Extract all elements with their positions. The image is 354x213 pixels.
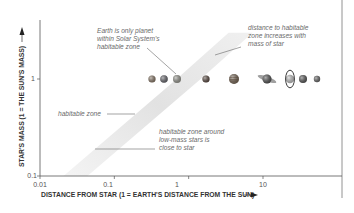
annotation-line: Earth is only planet: [97, 27, 154, 35]
annotation-line: habitable zone around: [159, 128, 225, 135]
leader-line: [147, 48, 176, 74]
x-tick-label: 1: [175, 181, 179, 188]
annotation-line: within Solar System's: [97, 35, 160, 43]
y-axis-label: STAR'S MASS (1 = THE SUN'S MASS): [18, 46, 26, 167]
annotation-line: habitable zone: [97, 43, 140, 50]
planet-pluto: [314, 76, 320, 82]
planet-jupiter: [229, 74, 239, 84]
y-tick-label: 1: [31, 75, 35, 82]
x-axis-label: DISTANCE FROM STAR (1 = EARTH'S DISTANCE…: [41, 191, 254, 199]
annotation-line: habitable zone: [58, 110, 101, 117]
habitable-zone-band: [64, 33, 253, 176]
annotation-habitable-zone: habitable zone: [58, 110, 135, 117]
x-tick-label: 10: [259, 181, 267, 188]
x-tick-label: 0.1: [103, 181, 113, 188]
planet-venus: [160, 75, 168, 83]
annotation-line: close to star: [159, 144, 195, 151]
y-axis-arrow: [20, 27, 25, 42]
habitable-zone-diagram: 0.01 0.1 1 10 0.1 1 DISTANCE FROM STAR (…: [0, 0, 354, 213]
planet-earth: [173, 75, 181, 83]
annotation-line: low-mass stars is: [159, 136, 210, 143]
planet-neptune: [299, 75, 307, 83]
planet-uranus: [286, 70, 295, 88]
annotation-earth: Earth is only planet within Solar System…: [97, 27, 176, 74]
planet-saturn: [257, 73, 277, 84]
annotation-line: zone increases with: [247, 32, 306, 39]
planet-mars: [202, 75, 209, 82]
y-tick-label: 0.1: [27, 172, 37, 179]
annotation-line: mass of star: [248, 40, 285, 47]
planet-mercury: [148, 75, 155, 82]
x-tick-label: 0.01: [33, 181, 47, 188]
annotation-line: distance to habitable: [248, 24, 309, 31]
